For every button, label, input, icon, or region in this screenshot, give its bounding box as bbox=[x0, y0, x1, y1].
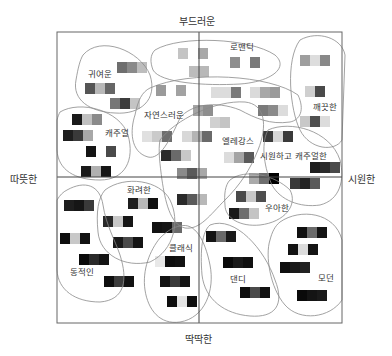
color-swatch-group bbox=[85, 83, 115, 94]
color-swatch-group bbox=[64, 200, 94, 211]
cluster-label-dandy: 댄디 bbox=[230, 275, 246, 284]
color-swatch bbox=[249, 208, 259, 219]
color-swatch bbox=[236, 191, 246, 202]
axis-label-top: 부드러운 bbox=[179, 13, 215, 28]
color-swatch bbox=[86, 146, 96, 157]
color-swatch bbox=[123, 216, 133, 227]
color-swatch bbox=[161, 150, 171, 161]
color-swatch bbox=[250, 57, 260, 68]
color-swatch-group bbox=[211, 87, 241, 98]
color-swatch-group bbox=[63, 130, 93, 141]
color-swatch bbox=[167, 296, 177, 307]
axis-label-bottom: 딱딱한 bbox=[185, 331, 212, 346]
color-swatch bbox=[260, 87, 270, 98]
color-swatch bbox=[192, 131, 202, 142]
color-swatch-group bbox=[189, 66, 219, 77]
color-swatch bbox=[96, 146, 106, 157]
color-swatch-group bbox=[128, 198, 158, 209]
color-swatch bbox=[230, 57, 240, 68]
color-swatch bbox=[288, 244, 298, 255]
cluster-outline-romantic bbox=[151, 40, 280, 84]
color-swatch bbox=[310, 55, 320, 66]
color-swatch-group bbox=[79, 254, 109, 265]
cluster-label-gorgeous: 화려한 bbox=[127, 186, 151, 195]
color-swatch bbox=[177, 194, 187, 205]
color-swatch bbox=[278, 105, 288, 116]
color-swatch bbox=[60, 233, 70, 244]
color-swatch-group bbox=[249, 173, 279, 184]
color-swatch bbox=[165, 256, 175, 267]
color-swatch bbox=[202, 131, 212, 142]
cluster-label-dynamic: 동적인 bbox=[70, 268, 94, 277]
color-swatch bbox=[123, 237, 133, 248]
color-swatch bbox=[246, 191, 256, 202]
color-swatch-group bbox=[110, 98, 140, 109]
axis-label-right: 시원한 bbox=[348, 171, 375, 186]
color-swatch-group bbox=[297, 227, 327, 238]
color-swatch bbox=[209, 66, 219, 77]
color-swatch-group bbox=[182, 131, 212, 142]
color-swatch-group bbox=[161, 150, 191, 161]
color-swatch-group bbox=[297, 290, 327, 301]
cluster-outline-classic bbox=[144, 225, 211, 322]
axis-label-left: 따뜻한 bbox=[10, 171, 37, 186]
color-swatch bbox=[320, 55, 330, 66]
color-swatch bbox=[162, 222, 172, 233]
color-swatch-group bbox=[258, 105, 288, 116]
color-swatch bbox=[240, 287, 250, 298]
color-swatch bbox=[290, 178, 300, 189]
color-swatch bbox=[175, 256, 185, 267]
color-swatch bbox=[72, 114, 82, 125]
color-swatch bbox=[308, 244, 318, 255]
color-swatch bbox=[120, 98, 130, 109]
color-swatch bbox=[240, 57, 250, 68]
color-swatch bbox=[133, 237, 143, 248]
color-swatch bbox=[199, 66, 209, 77]
color-swatch bbox=[216, 231, 226, 242]
color-swatch bbox=[310, 116, 320, 127]
color-swatch bbox=[110, 98, 120, 109]
color-swatch-group bbox=[113, 237, 143, 248]
color-swatch bbox=[171, 150, 181, 161]
color-swatch-group bbox=[206, 231, 236, 242]
color-swatch-group bbox=[263, 131, 293, 142]
color-swatch-group bbox=[229, 208, 259, 219]
color-swatch bbox=[127, 62, 137, 73]
color-swatch-group bbox=[236, 191, 266, 202]
color-swatch bbox=[280, 262, 290, 273]
color-swatch bbox=[310, 178, 320, 189]
color-swatch-group bbox=[305, 86, 335, 97]
color-swatch bbox=[210, 117, 220, 128]
color-swatch bbox=[130, 98, 140, 109]
color-swatch bbox=[113, 216, 123, 227]
color-swatch bbox=[298, 244, 308, 255]
color-swatch bbox=[270, 87, 280, 98]
color-swatch-group bbox=[288, 244, 318, 255]
color-swatch bbox=[300, 116, 310, 127]
color-swatch bbox=[260, 287, 270, 298]
cluster-label-modern: 모던 bbox=[318, 274, 334, 283]
color-swatch bbox=[273, 131, 283, 142]
color-swatch bbox=[85, 83, 95, 94]
color-swatch bbox=[290, 262, 300, 273]
color-swatch-group bbox=[250, 87, 280, 98]
color-swatch bbox=[178, 48, 188, 59]
positioning-map bbox=[0, 0, 392, 356]
color-swatch-group bbox=[86, 146, 116, 157]
color-swatch bbox=[307, 227, 317, 238]
color-swatch bbox=[104, 276, 114, 287]
color-swatch bbox=[231, 87, 241, 98]
color-swatch-group bbox=[224, 152, 254, 163]
color-swatch bbox=[79, 254, 89, 265]
color-swatch bbox=[155, 256, 165, 267]
color-swatch bbox=[181, 150, 191, 161]
color-swatch bbox=[256, 191, 266, 202]
color-swatch bbox=[330, 162, 340, 173]
color-swatch bbox=[70, 233, 80, 244]
color-swatch bbox=[211, 87, 221, 98]
color-swatch bbox=[95, 83, 105, 94]
color-swatch bbox=[74, 200, 84, 211]
color-swatch bbox=[101, 166, 111, 177]
color-swatch bbox=[176, 85, 186, 96]
color-swatch bbox=[166, 85, 176, 96]
